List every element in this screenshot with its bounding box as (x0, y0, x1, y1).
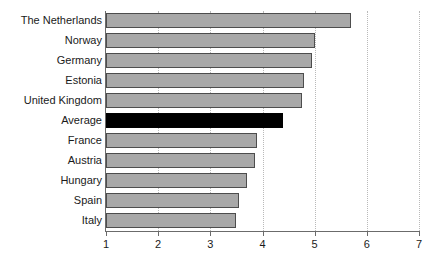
category-label: Germany (1, 54, 105, 67)
category-label: The Netherlands (1, 14, 105, 27)
category-label: Spain (1, 194, 105, 207)
category-label: Hungary (1, 174, 105, 187)
x-axis-tick-label: 5 (302, 238, 328, 251)
bar-average (106, 113, 283, 128)
bar-chart: The NetherlandsNorwayGermanyEstoniaUnite… (0, 0, 442, 259)
bar (106, 133, 257, 148)
x-axis-tick (315, 231, 316, 236)
gridline-x-7 (419, 11, 420, 231)
category-label: Norway (1, 34, 105, 47)
bar (106, 13, 351, 28)
bar (106, 33, 315, 48)
category-label: Austria (1, 154, 105, 167)
x-axis-tick-label: 4 (250, 238, 276, 251)
bar (106, 213, 236, 228)
category-label: Italy (1, 214, 105, 227)
category-label: United Kingdom (1, 94, 105, 107)
x-axis-tick-label: 6 (354, 238, 380, 251)
x-axis-tick (419, 231, 420, 236)
gridline-x-6 (367, 11, 368, 231)
x-axis-tick (210, 231, 211, 236)
y-axis-line (105, 11, 106, 231)
category-label: Average (1, 114, 105, 127)
x-axis-tick (367, 231, 368, 236)
bar (106, 193, 239, 208)
gridline-x-5 (315, 11, 316, 231)
bar (106, 53, 312, 68)
category-label: France (1, 134, 105, 147)
bar (106, 93, 302, 108)
bar (106, 153, 255, 168)
x-axis-tick (263, 231, 264, 236)
category-axis-labels: The NetherlandsNorwayGermanyEstoniaUnite… (0, 11, 105, 231)
plot-area (106, 11, 419, 231)
x-axis-tick (106, 231, 107, 236)
x-axis-tick-label: 2 (145, 238, 171, 251)
bar (106, 73, 304, 88)
x-axis-tick-label: 7 (406, 238, 432, 251)
x-axis-tick-label: 1 (93, 238, 119, 251)
x-axis-tick-label: 3 (197, 238, 223, 251)
bar (106, 173, 247, 188)
x-axis-tick (158, 231, 159, 236)
category-label: Estonia (1, 74, 105, 87)
